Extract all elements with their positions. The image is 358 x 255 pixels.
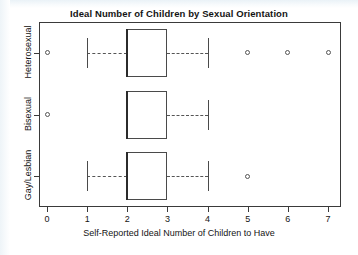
whisker-high-cap [208, 100, 209, 130]
x-tick [208, 207, 209, 212]
whisker-high-line [167, 115, 207, 116]
x-tick-label: 6 [278, 214, 298, 224]
x-tick [127, 207, 128, 212]
median-line [126, 91, 128, 139]
whisker-high-cap [208, 161, 209, 191]
x-tick [47, 207, 48, 212]
whisker-low-line [87, 176, 127, 177]
whisker-low-line [87, 53, 127, 54]
x-tick-label: 7 [318, 214, 338, 224]
box-gay-lesbian [127, 152, 167, 200]
x-tick-label: 5 [238, 214, 258, 224]
whisker-low-cap [87, 38, 88, 68]
outlier-point [245, 174, 250, 179]
outlier-point [45, 50, 50, 55]
whisker-high-cap [208, 38, 209, 68]
x-tick [248, 207, 249, 212]
outlier-point [245, 50, 250, 55]
y-tick [34, 176, 39, 177]
outlier-point [326, 50, 331, 55]
outlier-point [285, 50, 290, 55]
chart-title: Ideal Number of Children by Sexual Orien… [0, 8, 358, 19]
y-tick [34, 53, 39, 54]
x-tick-label: 1 [77, 214, 97, 224]
x-tick-label: 4 [198, 214, 218, 224]
x-tick-label: 2 [117, 214, 137, 224]
x-tick [328, 207, 329, 212]
box-bisexual [127, 91, 167, 139]
whisker-high-line [167, 53, 207, 54]
x-tick-label: 3 [157, 214, 177, 224]
outlier-point [45, 112, 50, 117]
y-tick [34, 115, 39, 116]
y-category-label: Gay/Lesbian [23, 132, 33, 218]
scan-tint-top-edge [0, 0, 358, 8]
x-axis-title: Self-Reported Ideal Number of Children t… [0, 228, 358, 238]
x-tick [288, 207, 289, 212]
median-line [126, 29, 128, 77]
scan-tint-left-edge [0, 0, 10, 255]
x-tick [87, 207, 88, 212]
box-heterosexual [127, 29, 167, 77]
plot-surface [39, 22, 341, 207]
chart-root: Ideal Number of Children by Sexual Orien… [0, 0, 358, 255]
whisker-high-line [167, 176, 207, 177]
median-line [126, 152, 128, 200]
x-tick [167, 207, 168, 212]
x-tick-label: 0 [37, 214, 57, 224]
whisker-low-cap [87, 161, 88, 191]
